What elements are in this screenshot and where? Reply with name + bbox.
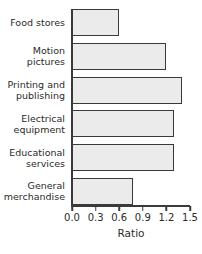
bar-chart: Food stores Motion pictures Printing and… [0,0,202,254]
bar-row [72,110,190,137]
bar-series [72,9,190,205]
bar-row [72,77,190,104]
x-axis-tick-label: 1.2 [158,211,174,224]
x-axis-tick-label: 0.0 [64,211,80,224]
bar [72,77,182,104]
category-axis-labels: Food stores Motion pictures Printing and… [0,9,68,205]
category-label: Electrical equipment [0,110,68,137]
bar-row [72,9,190,36]
bar [72,144,174,171]
bar-row [72,178,190,205]
x-axis-tick-label: 1.5 [182,211,198,224]
category-label: Educational services [0,144,68,171]
plot-area [72,9,190,205]
category-label: Printing and publishing [0,77,68,104]
category-label: Food stores [0,9,68,36]
bar [72,110,174,137]
x-axis-title: Ratio [72,227,190,239]
bar [72,178,133,205]
bar-row [72,43,190,70]
bar [72,43,166,70]
bar [72,9,119,36]
x-axis-tick-label: 0.3 [88,211,104,224]
x-axis-tick-label: 0.6 [111,211,127,224]
x-axis-tick-labels: 0.00.30.60.91.21.5 [0,211,202,225]
category-label: Motion pictures [0,43,68,70]
bar-row [72,144,190,171]
category-label: General merchandise [0,178,68,205]
x-axis-tick-label: 0.9 [135,211,151,224]
